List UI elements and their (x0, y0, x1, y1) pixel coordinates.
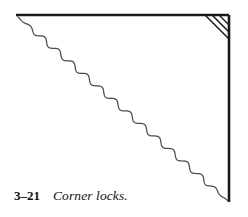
wavy-diagonal-fold-line (18, 17, 228, 201)
corner-locks-illustration: Line drawing of a fabric corner: a strai… (0, 0, 248, 217)
figure-number: 3–21 (14, 188, 40, 204)
figure-caption: 3–21 Corner locks. (14, 188, 128, 208)
corner-hatch-line-3 (220, 16, 228, 24)
corner-hatch-line-2 (213, 16, 228, 31)
figure-caption-text: Corner locks. (53, 188, 128, 204)
figure-container: Line drawing of a fabric corner: a strai… (0, 0, 248, 217)
corner-hatch-group (206, 16, 228, 38)
